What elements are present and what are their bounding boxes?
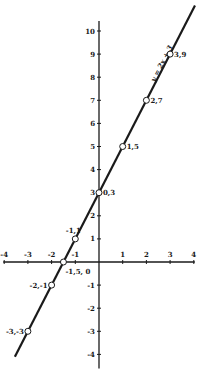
y-tick-label: 2	[90, 211, 95, 220]
x-tick-label: -3	[24, 250, 32, 259]
equation-label: y = 2x + 3	[148, 44, 175, 84]
y-tick-label: 7	[90, 96, 95, 105]
data-point-marker	[120, 144, 126, 150]
data-point-marker	[72, 236, 78, 242]
data-point-label: 0,3	[103, 188, 115, 197]
x-tick-label: -4	[0, 250, 8, 259]
data-point-label: 3,9	[174, 50, 186, 59]
data-point-marker	[60, 259, 66, 265]
y-tick-label: 3	[90, 188, 95, 197]
y-tick-label: 4	[90, 165, 95, 174]
data-point-marker	[96, 190, 102, 196]
y-tick-label: -4	[87, 350, 95, 359]
x-tick-label: 3	[168, 250, 173, 259]
data-points: -3,-3-2,-1-1,5, 0-1,10,31,52,73,9	[6, 50, 187, 336]
y-tick-label: 10	[85, 27, 95, 36]
y-tick-label: 1	[90, 234, 95, 243]
y-tick-label: 8	[90, 73, 95, 82]
y-tick-label: -2	[87, 304, 95, 313]
data-point-label: 1,5	[127, 142, 139, 151]
x-tick-label: 1	[120, 250, 125, 259]
y-tick-label: -3	[87, 327, 95, 336]
y-tick-label: 6	[90, 119, 95, 128]
y-tick-label: 5	[90, 142, 95, 151]
data-point-label: -2,-1	[30, 281, 48, 290]
x-tick-label: -2	[48, 250, 56, 259]
x-tick-label: -1	[71, 250, 79, 259]
data-point-marker	[49, 282, 55, 288]
y-tick-label: 9	[90, 50, 95, 59]
line-chart: -4-3-2-11234-4-3-2-112456789103 -3,-3-2,…	[0, 0, 203, 375]
data-point-label: -3,-3	[6, 327, 24, 336]
x-tick-label: 4	[191, 250, 196, 259]
data-point-label: -1,5, 0	[65, 267, 90, 276]
x-tick-label: 2	[144, 250, 149, 259]
y-tick-label: -1	[87, 281, 95, 290]
data-point-marker	[143, 97, 149, 103]
data-point-label: -1,1	[66, 226, 81, 235]
annotations: y = 2x + 3	[148, 44, 175, 84]
data-point-label: 2,7	[150, 96, 162, 105]
data-point-marker	[25, 328, 31, 334]
